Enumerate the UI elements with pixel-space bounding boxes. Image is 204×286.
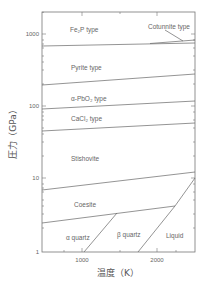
label-alpha-pbo2: α-PbO₂ type	[71, 95, 107, 103]
fe2p-pyrite-boundary	[42, 43, 195, 46]
phase-diagram: 1000 100 10 1 1000 2000 温度（K） 圧力（GPa） Fe…	[0, 0, 204, 286]
x-axis-title: 温度（K）	[97, 267, 139, 278]
coesite-quartz-boundary	[42, 206, 175, 223]
cotunnite-leader	[165, 30, 183, 41]
x-tick-1000: 1000	[75, 257, 89, 263]
label-beta-quartz: β quartz	[117, 231, 141, 239]
y-tick-10: 10	[32, 175, 39, 181]
label-fe2p: Fe₂P type	[70, 26, 99, 34]
label-liquid: Liquid	[166, 232, 184, 240]
pyrite-pbo2-boundary	[42, 74, 195, 85]
label-cacl2: CaCl₂ type	[71, 115, 102, 123]
label-stishovite: Stishovite	[71, 155, 100, 162]
label-alpha-quartz: α quartz	[66, 234, 90, 242]
plot-frame	[42, 12, 195, 252]
label-coesite: Coesite	[74, 201, 96, 208]
stishovite-coesite-boundary	[42, 172, 195, 190]
alpha-beta-quartz-boundary	[84, 213, 117, 252]
y-axis-title: 圧力（GPa）	[7, 105, 18, 159]
label-pyrite: Pyrite type	[71, 64, 102, 72]
label-cotunnite: Cotunnite type	[148, 23, 190, 31]
y-tick-1: 1	[36, 249, 40, 255]
x-tick-2000: 2000	[150, 257, 164, 263]
y-tick-100: 100	[29, 103, 40, 109]
pbo2-cacl2-boundary	[42, 101, 195, 109]
melting-curve	[138, 178, 195, 252]
x-axis-ticks	[64, 12, 176, 252]
cacl2-stishovite-boundary	[42, 123, 195, 131]
y-tick-1000: 1000	[26, 31, 40, 37]
phase-boundaries	[42, 30, 195, 252]
